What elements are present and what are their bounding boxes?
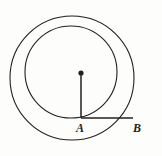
geometry-figure: A B	[0, 0, 162, 156]
inner-circle	[25, 26, 117, 118]
center-dot	[78, 70, 83, 75]
vertex-label-a: A	[76, 122, 84, 134]
vertex-label-b: B	[133, 122, 141, 134]
outer-circle	[10, 16, 134, 140]
